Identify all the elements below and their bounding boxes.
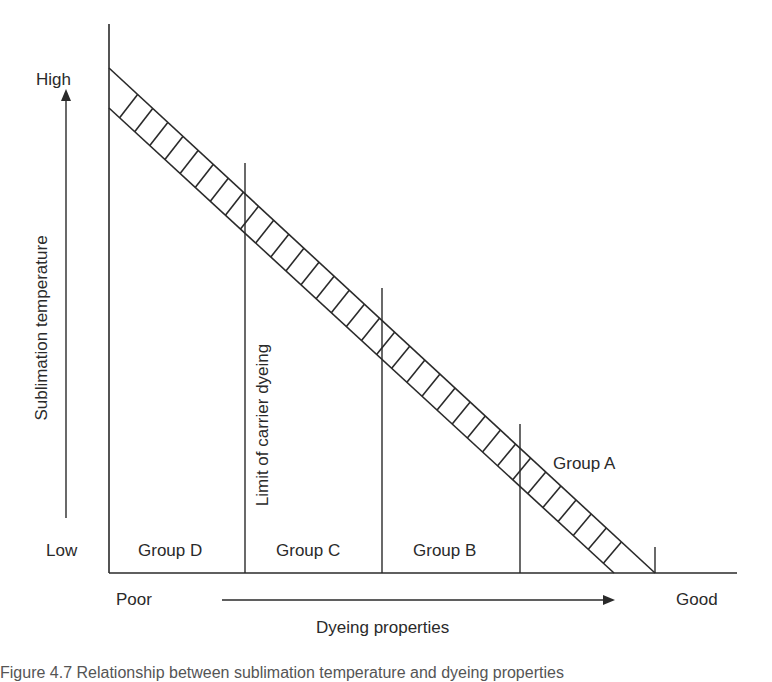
hatch-mark <box>437 388 455 410</box>
hatch-mark <box>286 248 304 271</box>
hatch-mark <box>483 430 501 452</box>
hatch-mark <box>528 472 546 494</box>
hatch-mark <box>346 304 364 326</box>
hatch-mark <box>331 290 349 313</box>
figure-caption: Figure 4.7 Relationship between sublimat… <box>0 664 564 682</box>
hatch-mark <box>150 122 168 145</box>
hatch-mark <box>543 486 561 508</box>
hatch-mark <box>452 402 470 424</box>
hatch-mark <box>407 360 425 382</box>
group-b-label: Group B <box>413 541 476 561</box>
y-axis-title: Sublimation temperature <box>32 235 52 420</box>
x-poor-label: Poor <box>116 590 152 610</box>
hatch-mark <box>180 150 198 173</box>
hatch-mark <box>120 94 138 117</box>
hatch-mark <box>588 528 606 549</box>
hatch-mark <box>225 192 243 215</box>
group-c-label: Group C <box>276 541 340 561</box>
hatch-mark <box>573 514 591 535</box>
hatch-mark <box>241 206 259 229</box>
x-arrow-head-icon <box>603 595 615 605</box>
hatch-mark <box>558 500 576 522</box>
hatch-mark <box>316 276 334 299</box>
hatch-mark <box>301 262 319 285</box>
hatch-mark <box>271 234 289 257</box>
hatch-mark <box>513 458 531 480</box>
hatch-mark <box>498 444 516 466</box>
hatch-mark <box>377 332 395 354</box>
limit-carrier-dyeing-label: Limit of carrier dyeing <box>253 344 273 507</box>
hatch-mark <box>467 416 485 438</box>
hatch-mark <box>135 108 153 131</box>
hatch-mark <box>195 164 213 187</box>
y-arrow-head-icon <box>61 89 71 101</box>
hatch-mark <box>210 178 228 201</box>
hatch-mark <box>603 542 621 563</box>
group-a-label: Group A <box>553 454 615 474</box>
x-good-label: Good <box>676 590 718 610</box>
group-d-label: Group D <box>138 541 202 561</box>
y-high-label: High <box>36 70 71 90</box>
y-low-label: Low <box>46 541 77 561</box>
x-axis-title: Dyeing properties <box>316 618 449 638</box>
hatch-mark <box>256 220 274 243</box>
hatch-mark <box>362 318 380 340</box>
hatch-mark <box>392 346 410 368</box>
hatch-mark <box>165 136 183 159</box>
hatch-mark <box>422 374 440 396</box>
